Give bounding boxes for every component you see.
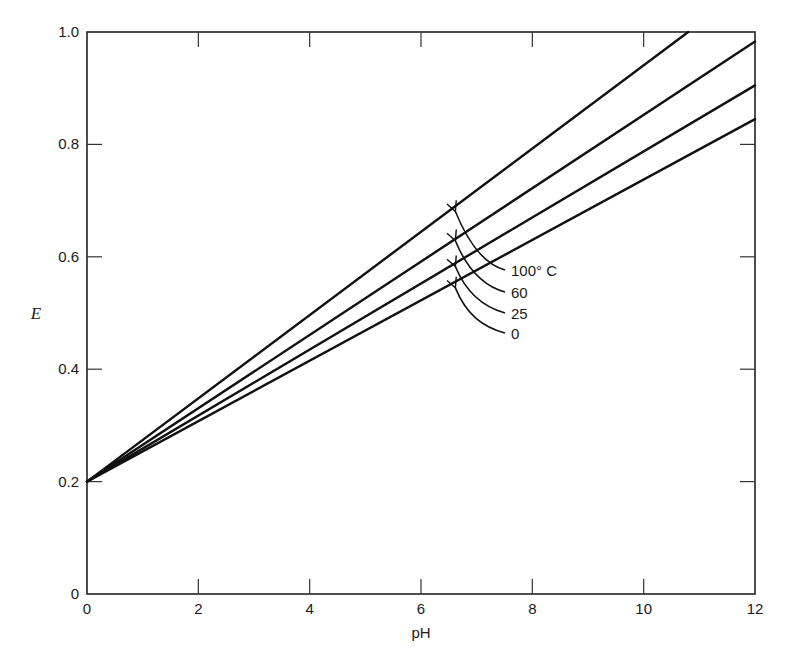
y-tick-label: 1.0 — [58, 23, 79, 40]
axis-ticks — [87, 32, 755, 594]
series-line-60 — [87, 42, 755, 482]
data-series — [87, 32, 755, 482]
plot-frame — [87, 32, 755, 594]
tick-labels: 02468101200.20.40.60.81.0 — [58, 23, 763, 617]
x-axis-label: pH — [411, 624, 430, 641]
annotation-arrow — [455, 211, 505, 270]
y-tick-label: 0 — [71, 585, 79, 602]
x-tick-label: 2 — [194, 600, 202, 617]
y-axis-label: E — [30, 304, 42, 323]
series-line-100C — [87, 32, 688, 482]
annotation-label: 60 — [511, 284, 528, 301]
y-tick-label: 0.6 — [58, 248, 79, 265]
annotation-label: 0 — [511, 325, 519, 342]
x-tick-label: 0 — [83, 600, 91, 617]
annotation-label: 100° C — [511, 262, 557, 279]
chart: 02468101200.20.40.60.81.0 100° C60250 pH… — [0, 0, 790, 666]
series-line-25 — [87, 85, 755, 481]
x-tick-label: 6 — [417, 600, 425, 617]
annotations: 100° C60250 — [455, 211, 557, 342]
y-tick-label: 0.4 — [58, 360, 79, 377]
y-tick-label: 0.8 — [58, 135, 79, 152]
x-tick-label: 8 — [528, 600, 536, 617]
series-line-0 — [87, 119, 755, 482]
plot-border — [87, 32, 755, 594]
y-tick-label: 0.2 — [58, 473, 79, 490]
x-tick-label: 4 — [305, 600, 313, 617]
x-tick-label: 10 — [635, 600, 652, 617]
annotation-label: 25 — [511, 305, 528, 322]
x-tick-label: 12 — [747, 600, 764, 617]
